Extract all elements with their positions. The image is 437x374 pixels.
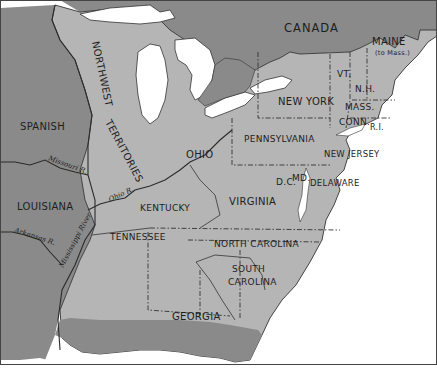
label-maine: MAINE (372, 36, 406, 47)
label-new-jersey: NEW JERSEY (324, 149, 380, 159)
label-new-hampshire: N.H. (355, 84, 375, 94)
label-north-carolina: NORTH CAROLINA (214, 239, 300, 249)
label-kentucky: KENTUCKY (140, 203, 190, 213)
label-new-york: NEW YORK (278, 96, 334, 107)
label-canada: CANADA (284, 21, 339, 35)
label-delaware: DELAWARE (310, 178, 360, 188)
historical-map-early-united-states: CANADA SPANISH LOUISIANA NORTHWEST TERRI… (0, 0, 437, 374)
label-tennessee: TENNESSEE (109, 232, 166, 242)
label-virginia: VIRGINIA (229, 196, 276, 207)
label-pennsylvania: PENNSYLVANIA (244, 134, 315, 144)
label-louisiana: LOUISIANA (17, 201, 74, 212)
label-massachusetts: MASS. (345, 102, 375, 112)
label-maryland: MD. (292, 173, 310, 183)
label-rhode-island: R.I. (370, 123, 384, 132)
label-south-carolina-2: CAROLINA (228, 277, 277, 287)
label-spanish: SPANISH (20, 121, 65, 132)
label-connecticut: CONN. (339, 117, 370, 127)
label-georgia: GEORGIA (172, 311, 221, 322)
label-south-carolina-1: SOUTH (232, 264, 265, 274)
label-vermont: VT. (337, 69, 351, 79)
label-maine-note: (to Mass.) (375, 49, 410, 57)
label-ohio: OHIO (186, 149, 213, 160)
